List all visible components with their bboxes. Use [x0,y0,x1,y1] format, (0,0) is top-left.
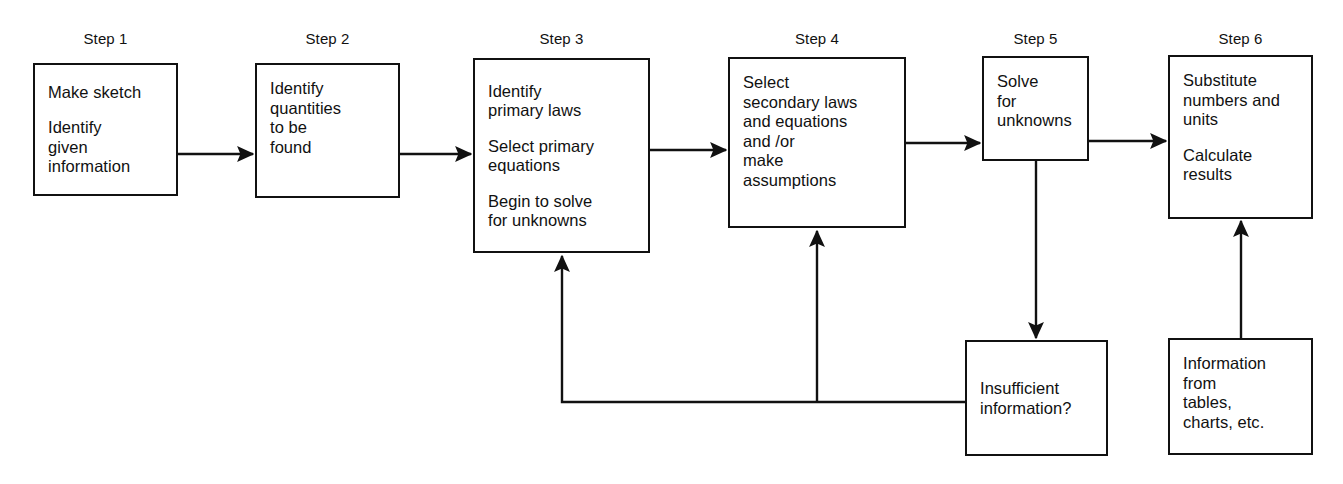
node-step-6[interactable]: Substitute numbers and units Calculate r… [1168,55,1313,219]
step-label-2: Step 2 [255,30,400,47]
node-step-3[interactable]: Identify primary laws Select primary equ… [473,58,650,253]
node-step-5-text: Solve for unknowns [997,72,1079,131]
node-step-3-line-2: Select primary equations [488,136,640,175]
node-information-source-text: Information from tables, charts, etc. [1183,354,1303,432]
step-label-4: Step 4 [728,30,906,47]
node-step-2[interactable]: Identify quantities to be found [255,63,400,198]
node-step-5-line-1: Solve for unknowns [997,72,1079,131]
node-step-1-line-2: Identify given information [48,118,168,177]
connector-layer [0,0,1343,484]
node-information-source[interactable]: Information from tables, charts, etc. [1168,338,1313,455]
node-information-source-line-1: Information from tables, charts, etc. [1183,354,1303,432]
node-step-2-line-1: Identify quantities to be found [270,79,390,157]
node-step-4-text: Select secondary laws and equations and … [743,73,896,190]
step-label-1: Step 1 [33,30,178,47]
node-insufficient-information-line-1: Insufficient information? [980,379,1098,418]
node-step-1[interactable]: Make sketch Identify given information [33,63,178,196]
node-step-3-line-1: Identify primary laws [488,81,640,120]
node-step-6-text: Substitute numbers and units Calculate r… [1183,71,1303,185]
node-step-4-line-1: Select secondary laws and equations and … [743,73,896,190]
step-label-6: Step 6 [1168,30,1313,47]
node-step-6-line-2: Calculate results [1183,146,1303,185]
step-label-5: Step 5 [982,30,1089,47]
node-step-1-line-1: Make sketch [48,83,168,103]
step-label-3: Step 3 [473,30,650,47]
node-step-5[interactable]: Solve for unknowns [982,56,1089,161]
node-insufficient-information-text: Insufficient information? [980,379,1098,418]
node-step-3-line-3: Begin to solve for unknowns [488,191,640,230]
connector-insufficient-to-step3 [562,256,965,402]
node-step-6-line-1: Substitute numbers and units [1183,71,1303,130]
node-insufficient-information[interactable]: Insufficient information? [965,340,1108,456]
node-step-3-text: Identify primary laws Select primary equ… [488,81,640,230]
node-step-2-text: Identify quantities to be found [270,79,390,157]
node-step-1-text: Make sketch Identify given information [48,83,168,177]
flowchart-canvas: Step 1 Step 2 Step 3 Step 4 Step 5 Step … [0,0,1343,484]
node-step-4[interactable]: Select secondary laws and equations and … [728,57,906,228]
